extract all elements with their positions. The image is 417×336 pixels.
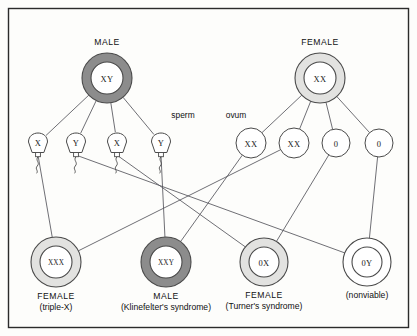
offspring-xxx: XXX bbox=[31, 237, 81, 287]
offspring-0y-genotype-label: 0Y bbox=[362, 258, 373, 268]
diagram-canvas: XYXY XXXX00 XYXX XXXXXY0X0Y MALEFEMALEFE… bbox=[0, 0, 417, 336]
offspring-xxx-genotype-label: XXX bbox=[48, 259, 65, 267]
sperm-3-midpiece bbox=[115, 153, 120, 157]
ovum-label: ovum bbox=[226, 110, 247, 120]
ovum-3-genotype-label: 0 bbox=[334, 139, 339, 149]
offspring-0x-genotype-label: 0X bbox=[259, 258, 270, 268]
sperm-3-genotype-label: X bbox=[114, 138, 120, 148]
offspring-xxy-label-line1: MALE bbox=[153, 291, 179, 301]
offspring-xxy-genotype-label: XXY bbox=[158, 259, 175, 267]
offspring-0y-label-line2: (nonviable) bbox=[346, 290, 389, 300]
sperm-1-genotype-label: X bbox=[35, 138, 41, 148]
parent-male: XY bbox=[82, 53, 132, 103]
ovum-3: 0 bbox=[322, 129, 350, 157]
genetics-nondisjunction-diagram: XYXY XXXX00 XYXX XXXXXY0X0Y MALEFEMALEFE… bbox=[0, 0, 417, 336]
sperm-4-genotype-label: Y bbox=[158, 138, 164, 148]
offspring-0x: 0X bbox=[240, 238, 288, 286]
sperm-1-midpiece bbox=[36, 153, 41, 157]
offspring-xxy-label-line2: (Klinefelter's syndrome) bbox=[121, 302, 211, 312]
offspring-0y: 0Y bbox=[343, 238, 391, 286]
parent-female: XX bbox=[295, 53, 345, 103]
ovum-4: 0 bbox=[365, 129, 393, 157]
ovum-1: XX bbox=[236, 128, 266, 158]
parent-male-caption: MALE bbox=[94, 37, 120, 47]
offspring-xxx-label-line1: FEMALE bbox=[37, 291, 75, 301]
sperm-4-midpiece bbox=[159, 153, 164, 157]
sperm-label: sperm bbox=[171, 110, 194, 120]
offspring-xxy: XXY bbox=[141, 237, 191, 287]
ovum-4-genotype-label: 0 bbox=[377, 139, 382, 149]
parent-female-genotype-label: XX bbox=[314, 74, 327, 84]
offspring-xxx-label-line2: (triple-X) bbox=[40, 302, 73, 312]
ovum-2: XX bbox=[279, 128, 309, 158]
ovum-1-genotype-label: XX bbox=[245, 139, 258, 149]
parent-female-caption: FEMALE bbox=[301, 37, 339, 47]
offspring-0x-label-line1: FEMALE bbox=[245, 290, 283, 300]
ovum-2-genotype-label: XX bbox=[288, 139, 301, 149]
sperm-2-genotype-label: Y bbox=[73, 138, 79, 148]
offspring-0x-label-line2: (Turner's syndrome) bbox=[226, 301, 303, 311]
sperm-2-midpiece bbox=[74, 153, 79, 157]
parent-male-genotype-label: XY bbox=[101, 74, 114, 84]
